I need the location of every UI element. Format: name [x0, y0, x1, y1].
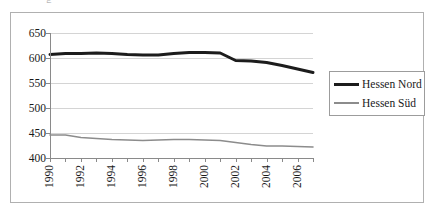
y-axis-label-500: 500	[12, 103, 46, 114]
x-tick-1997	[158, 158, 159, 162]
legend-label-hessen-nord: Hessen Nord	[362, 78, 422, 90]
legend-swatch-hessen-nord-icon	[334, 83, 359, 86]
x-tick-2006	[298, 158, 299, 162]
legend-swatch-hessen-sued-icon	[334, 102, 359, 104]
chart-plot-wrapper: 650 600 550 500 450 400 1990199219941996…	[0, 0, 434, 211]
x-tick-1993	[96, 158, 97, 162]
x-axis-label-1990: 1990	[44, 165, 55, 188]
x-axis-label-1992: 1992	[75, 165, 86, 188]
x-tick-2002	[236, 158, 237, 162]
x-tick-1994	[112, 158, 113, 162]
y-axis-line	[50, 33, 51, 159]
x-tick-1992	[81, 158, 82, 162]
x-axis-line	[50, 158, 314, 159]
y-tick-600	[46, 58, 50, 59]
x-axis-label-2000: 2000	[199, 165, 210, 188]
chart-legend: Hessen Nord Hessen Süd	[329, 71, 425, 116]
x-tick-2001	[220, 158, 221, 162]
x-tick-2004	[267, 158, 268, 162]
y-tick-500	[46, 108, 50, 109]
y-tick-650	[46, 33, 50, 34]
x-axis-label-2006: 2006	[292, 165, 303, 188]
y-axis-tick-labels: 650 600 550 500 450 400	[8, 0, 46, 211]
y-tick-550	[46, 83, 50, 84]
x-tick-1995	[127, 158, 128, 162]
series-line-hessen-sued	[50, 135, 313, 147]
y-axis-label-550: 550	[12, 78, 46, 89]
y-tick-450	[46, 133, 50, 134]
y-axis-label-450: 450	[12, 128, 46, 139]
x-axis-label-2002: 2002	[230, 165, 241, 188]
x-axis-label-1996: 1996	[137, 165, 148, 188]
x-axis-label-2004: 2004	[261, 165, 272, 188]
x-tick-1990	[50, 158, 51, 162]
plot-area	[50, 33, 313, 158]
legend-label-hessen-sued: Hessen Süd	[362, 97, 416, 109]
x-tick-1998	[174, 158, 175, 162]
series-line-hessen-nord	[50, 53, 313, 73]
x-tick-2003	[251, 158, 252, 162]
x-tick-1991	[65, 158, 66, 162]
y-axis-label-650: 650	[12, 28, 46, 39]
x-axis-label-1998: 1998	[168, 165, 179, 188]
x-tick-1996	[143, 158, 144, 162]
x-tick-2005	[282, 158, 283, 162]
legend-item-hessen-sued: Hessen Süd	[334, 94, 416, 112]
y-axis-label-600: 600	[12, 53, 46, 64]
legend-item-hessen-nord: Hessen Nord	[334, 75, 422, 93]
y-axis-label-400: 400	[12, 153, 46, 164]
x-axis-label-1994: 1994	[106, 165, 117, 188]
x-tick-2000	[205, 158, 206, 162]
series-lines	[50, 33, 313, 158]
x-tick-2007	[313, 158, 314, 162]
x-tick-1999	[189, 158, 190, 162]
